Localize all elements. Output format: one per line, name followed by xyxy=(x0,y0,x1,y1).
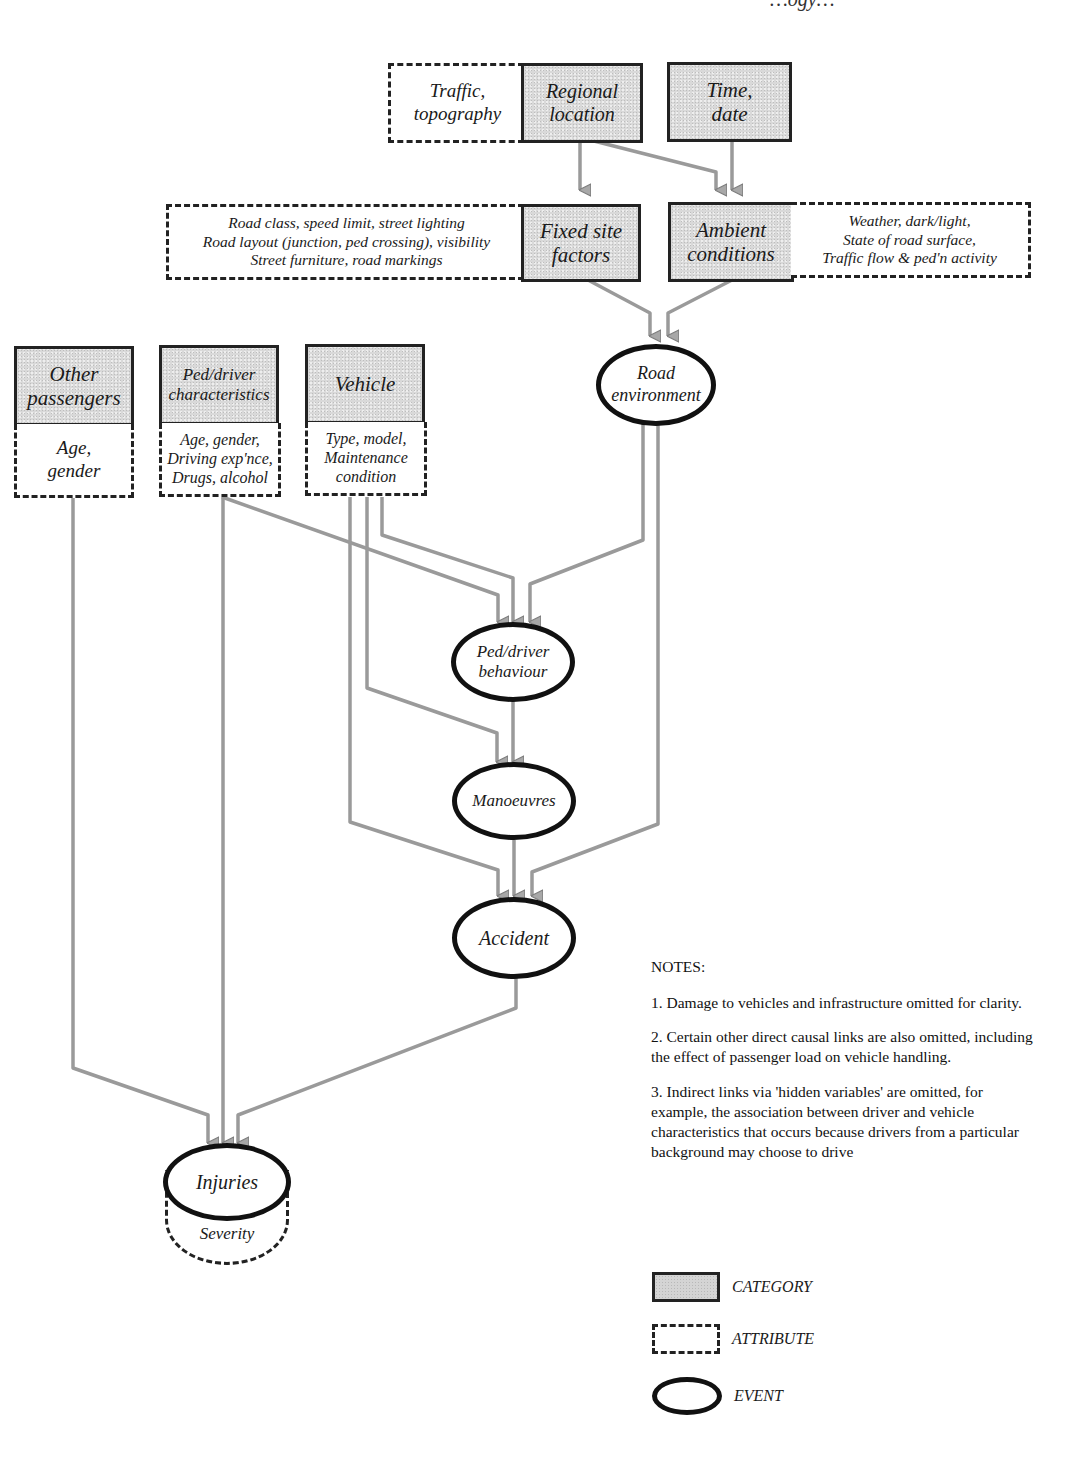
event-label: Injuries xyxy=(196,1170,258,1194)
attribute-other-passengers: Age, gender xyxy=(14,424,134,498)
note-3: 3. Indirect links via 'hidden variables'… xyxy=(651,1082,1041,1163)
notes-title: NOTES: xyxy=(651,957,1041,977)
attribute-fixed-site: Road class, speed limit, street lighting… xyxy=(166,204,524,280)
category-regional-location: Regional location xyxy=(521,63,643,143)
category-swatch-icon xyxy=(652,1272,720,1302)
event-injuries: Injuries xyxy=(163,1143,291,1221)
legend-label: CATEGORY xyxy=(732,1278,812,1296)
attribute-label: Age, gender, Driving exp'nce, Drugs, alc… xyxy=(167,430,273,488)
edge-fixed-to-roadenv xyxy=(588,280,650,336)
attribute-label: Weather, dark/light, State of road surfa… xyxy=(822,212,997,268)
category-ped-driver-characteristics: Ped/driver characteristics xyxy=(159,345,279,425)
category-label: Ped/driver characteristics xyxy=(168,365,269,404)
legend-label: EVENT xyxy=(734,1387,783,1405)
category-label: Time, date xyxy=(706,78,752,126)
category-label: Ambient conditions xyxy=(687,218,775,266)
attribute-label: Type, model, Maintenance condition xyxy=(324,429,408,487)
edge-vehicle-to-accident xyxy=(350,497,498,896)
legend-category: CATEGORY xyxy=(652,1272,812,1302)
category-fixed-site-factors: Fixed site factors xyxy=(521,204,641,282)
attribute-traffic-topography: Traffic, topography xyxy=(388,63,524,143)
event-road-environment: Road environment xyxy=(596,344,716,426)
category-label: Fixed site factors xyxy=(540,219,622,267)
category-time-date: Time, date xyxy=(667,62,792,142)
category-label: Regional location xyxy=(546,80,618,126)
event-label: Manoeuvres xyxy=(472,791,555,811)
event-manoeuvres: Manoeuvres xyxy=(452,762,576,840)
attribute-ped-driver: Age, gender, Driving exp'nce, Drugs, alc… xyxy=(159,423,281,497)
edge-ambient-to-roadenv xyxy=(668,280,732,336)
event-ped-driver-behaviour: Ped/driver behaviour xyxy=(451,622,575,702)
attribute-label: Road class, speed limit, street lighting… xyxy=(203,214,490,270)
category-label: Vehicle xyxy=(335,372,396,396)
attribute-swatch-icon xyxy=(652,1324,720,1354)
edge-roadenv-to-behaviour xyxy=(530,422,643,622)
edge-regional-to-ambient xyxy=(590,140,716,190)
attribute-label: Traffic, topography xyxy=(414,80,502,126)
edge-accident-to-injuries xyxy=(238,978,516,1143)
attribute-label: Age, gender xyxy=(48,437,101,483)
note-2: 2. Certain other direct causal links are… xyxy=(651,1027,1041,1067)
category-label: Other passengers xyxy=(27,362,120,410)
note-1: 1. Damage to vehicles and infrastructure… xyxy=(651,993,1041,1013)
attribute-vehicle: Type, model, Maintenance condition xyxy=(305,422,427,496)
event-label: Ped/driver behaviour xyxy=(477,642,550,683)
legend-label: ATTRIBUTE xyxy=(732,1330,814,1348)
event-swatch-icon xyxy=(652,1377,722,1415)
event-label: Accident xyxy=(479,926,549,950)
edge-passengers-to-injuries xyxy=(73,497,208,1143)
category-ambient-conditions: Ambient conditions xyxy=(668,202,794,282)
category-other-passengers: Other passengers xyxy=(14,346,134,426)
legend-attribute: ATTRIBUTE xyxy=(652,1324,814,1354)
notes-panel: NOTES: 1. Damage to vehicles and infrast… xyxy=(651,957,1041,1176)
category-vehicle: Vehicle xyxy=(305,344,425,424)
event-accident: Accident xyxy=(452,897,576,979)
attribute-label: Severity xyxy=(200,1224,255,1244)
legend-event: EVENT xyxy=(652,1377,783,1415)
event-label: Road environment xyxy=(611,363,700,406)
attribute-ambient: Weather, dark/light, State of road surfa… xyxy=(791,202,1031,278)
causal-diagram: …ogy… xyxy=(0,0,1091,1458)
